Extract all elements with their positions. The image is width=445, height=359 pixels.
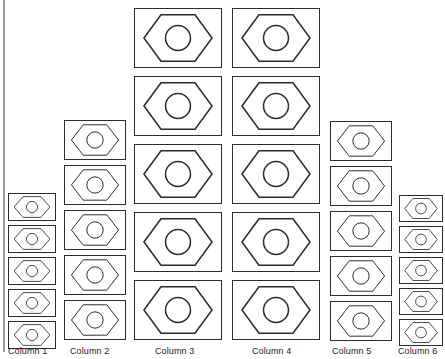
column-label-2: Column 2: [70, 346, 109, 356]
hex-nut-icon: [399, 226, 443, 253]
column-stack-1: [8, 193, 56, 349]
column-stack-4: [232, 8, 320, 340]
hex-nut-icon: [232, 280, 320, 340]
hex-nut-icon: [8, 321, 56, 349]
hex-nut-icon: [330, 121, 392, 161]
hex-nut-icon: [330, 301, 392, 341]
column-label-5: Column 5: [332, 346, 371, 356]
column-stack-6: [399, 195, 443, 346]
hex-nut-icon: [399, 319, 443, 346]
hex-nut-icon: [8, 225, 56, 253]
hex-nut-icon: [399, 195, 443, 222]
diagram-canvas: Column 1Column 2Column 3Column 4Column 5…: [0, 0, 445, 359]
hex-nut-icon: [232, 8, 320, 68]
hex-nut-icon: [232, 144, 320, 204]
hex-nut-icon: [134, 212, 222, 272]
column-label-1: Column 1: [8, 346, 47, 356]
column-label-4: Column 4: [252, 346, 291, 356]
hex-nut-icon: [64, 210, 126, 250]
column-stack-3: [134, 8, 222, 340]
hex-nut-icon: [399, 257, 443, 284]
hex-nut-icon: [64, 300, 126, 340]
hex-nut-icon: [330, 256, 392, 296]
hex-nut-icon: [330, 211, 392, 251]
hex-nut-icon: [8, 193, 56, 221]
column-label-3: Column 3: [155, 346, 194, 356]
hex-nut-icon: [8, 257, 56, 285]
hex-nut-icon: [399, 288, 443, 315]
hex-nut-icon: [64, 120, 126, 160]
hex-nut-icon: [134, 280, 222, 340]
left-axis-line: [3, 0, 5, 352]
hex-nut-icon: [134, 76, 222, 136]
column-stack-2: [64, 120, 126, 340]
hex-nut-icon: [134, 8, 222, 68]
column-label-6: Column 6: [398, 346, 437, 356]
hex-nut-icon: [232, 76, 320, 136]
column-stack-5: [330, 121, 392, 341]
hex-nut-icon: [134, 144, 222, 204]
hex-nut-icon: [8, 289, 56, 317]
hex-nut-icon: [64, 165, 126, 205]
hex-nut-icon: [64, 255, 126, 295]
hex-nut-icon: [232, 212, 320, 272]
hex-nut-icon: [330, 166, 392, 206]
